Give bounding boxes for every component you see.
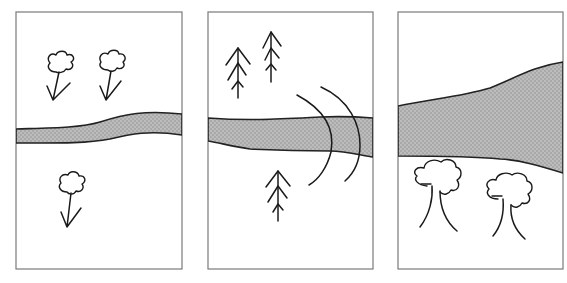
panel-2 [208, 12, 373, 269]
panel-3 [398, 12, 563, 269]
panel-1 [16, 12, 182, 269]
three-panel-illustration [0, 0, 567, 283]
